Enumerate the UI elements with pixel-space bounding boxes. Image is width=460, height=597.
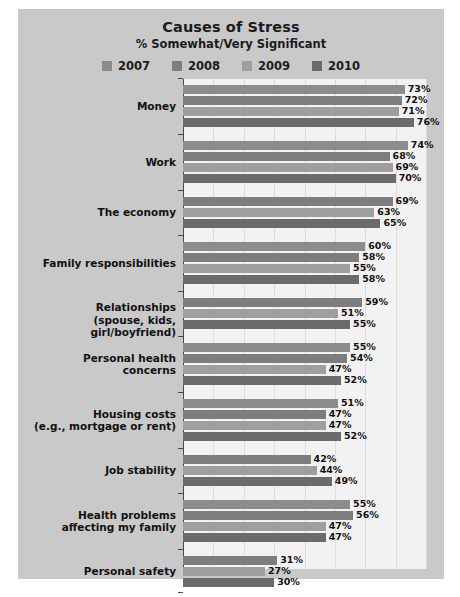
- legend-item-2010: 2010: [312, 59, 360, 73]
- bar-2008: [183, 197, 393, 206]
- bar-row: 55%: [183, 320, 426, 329]
- category-label-line: Health problems: [28, 509, 176, 522]
- axis-tick: [178, 592, 183, 593]
- category-label: Work: [28, 156, 176, 169]
- bar-2008: [183, 253, 359, 262]
- bar-value-label: 56%: [353, 509, 379, 520]
- legend-label: 2007: [118, 59, 150, 73]
- bar-row: 59%: [183, 298, 426, 307]
- category-label: Money: [28, 100, 176, 113]
- bar-group: Health problemsaffecting my family55%56%…: [183, 500, 426, 544]
- bar-value-label: 51%: [338, 307, 364, 318]
- axis-tick: [178, 190, 183, 191]
- category-label-line: (spouse, kids, girl/boyfriend): [28, 314, 176, 339]
- bar-row: 69%: [183, 197, 426, 206]
- bar-value-label: 54%: [347, 352, 373, 363]
- bar-2008: [183, 152, 390, 161]
- bar-group: The economy69%63%65%: [183, 197, 426, 230]
- category-label: Relationships(spouse, kids, girl/boyfrie…: [28, 301, 176, 339]
- bar-group: Personal healthconcerns55%54%47%52%: [183, 343, 426, 387]
- bar-value-label: 55%: [350, 498, 376, 509]
- bar-row: 72%: [183, 96, 426, 105]
- bar-2009: [183, 309, 338, 318]
- bar-value-label: 47%: [326, 520, 352, 531]
- category-label-line: Money: [28, 100, 176, 113]
- bar-row: 58%: [183, 253, 426, 262]
- bar-value-label: 76%: [414, 116, 440, 127]
- bar-row: 58%: [183, 275, 426, 284]
- bar-row: 56%: [183, 511, 426, 520]
- bar-value-label: 42%: [311, 453, 337, 464]
- bar-2009: [183, 567, 265, 576]
- bar-row: 47%: [183, 365, 426, 374]
- bar-row: 47%: [183, 522, 426, 531]
- bar-value-label: 52%: [341, 430, 367, 441]
- bar-value-label: 30%: [274, 576, 300, 587]
- bar-value-label: 65%: [380, 217, 406, 228]
- category-label-line: The economy: [28, 206, 176, 219]
- bar-2009: [183, 466, 317, 475]
- bar-2010: [183, 477, 332, 486]
- bar-2009: [183, 208, 374, 217]
- bar-value-label: 58%: [359, 251, 385, 262]
- bar-2008: [183, 410, 326, 419]
- bar-row: 31%: [183, 556, 426, 565]
- bar-value-label: 55%: [350, 341, 376, 352]
- axis-tick: [178, 392, 183, 393]
- bar-row: 71%: [183, 107, 426, 116]
- bar-2010: [183, 533, 326, 542]
- legend-item-2009: 2009: [242, 59, 290, 73]
- bar-2008: [183, 511, 353, 520]
- category-label: The economy: [28, 206, 176, 219]
- bar-row: 74%: [183, 141, 426, 150]
- axis-tick: [178, 134, 183, 135]
- bar-row: 73%: [183, 85, 426, 94]
- bar-2008: [183, 298, 362, 307]
- bar-value-label: 70%: [396, 172, 422, 183]
- bar-value-label: 59%: [362, 296, 388, 307]
- gridline: [426, 79, 427, 569]
- bar-2010: [183, 376, 341, 385]
- bar-2010: [183, 275, 359, 284]
- chart-page: Causes of Stress % Somewhat/Very Signifi…: [0, 0, 460, 597]
- axis-tick: [178, 291, 183, 292]
- bar-row: 63%: [183, 208, 426, 217]
- bar-row: 47%: [183, 410, 426, 419]
- bar-value-label: 69%: [393, 161, 419, 172]
- legend-swatch-icon: [172, 61, 182, 71]
- legend-item-2007: 2007: [102, 59, 150, 73]
- bar-row: 49%: [183, 477, 426, 486]
- legend-item-2008: 2008: [172, 59, 220, 73]
- bar-2010: [183, 320, 350, 329]
- bar-row: 52%: [183, 432, 426, 441]
- bar-value-label: 71%: [399, 105, 425, 116]
- bar-2008: [183, 96, 402, 105]
- bar-value-label: 63%: [374, 206, 400, 217]
- bar-2008: [183, 556, 277, 565]
- category-label: Personal safety: [28, 565, 176, 578]
- bar-value-label: 55%: [350, 262, 376, 273]
- bar-2008: [183, 354, 347, 363]
- category-label-line: Personal health: [28, 352, 176, 365]
- category-label: Job stability: [28, 464, 176, 477]
- chart-subtitle: % Somewhat/Very Significant: [18, 37, 444, 51]
- bar-value-label: 68%: [390, 150, 416, 161]
- bar-2008: [183, 455, 311, 464]
- bar-value-label: 69%: [393, 195, 419, 206]
- legend-swatch-icon: [242, 61, 252, 71]
- bar-row: 68%: [183, 152, 426, 161]
- bar-row: 42%: [183, 455, 426, 464]
- category-label-line: Family responsibilities: [28, 257, 176, 270]
- bar-value-label: 31%: [277, 554, 303, 565]
- bar-row: 51%: [183, 309, 426, 318]
- axis-tick: [178, 78, 183, 79]
- bar-value-label: 27%: [265, 565, 291, 576]
- bar-value-label: 47%: [326, 363, 352, 374]
- bar-2009: [183, 163, 393, 172]
- bar-2009: [183, 264, 350, 273]
- category-label-line: affecting my family: [28, 521, 176, 534]
- bar-value-label: 55%: [350, 318, 376, 329]
- bar-value-label: 60%: [365, 240, 391, 251]
- bar-row: 27%: [183, 567, 426, 576]
- bar-row: 69%: [183, 163, 426, 172]
